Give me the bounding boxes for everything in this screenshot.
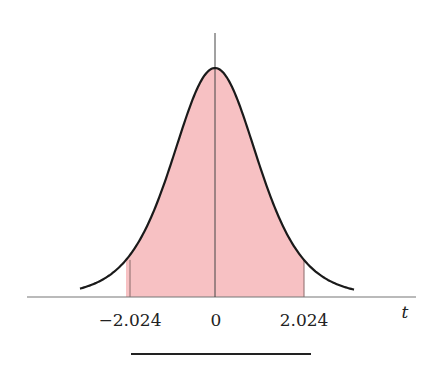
tick-label-pos: 2.024 (280, 310, 329, 330)
tick-label-neg: −2.024 (99, 310, 162, 330)
tick-label-zero: 0 (211, 310, 222, 330)
t-distribution-chart: −2.024 0 2.024 t (0, 0, 440, 374)
x-axis-label: t (402, 302, 409, 322)
